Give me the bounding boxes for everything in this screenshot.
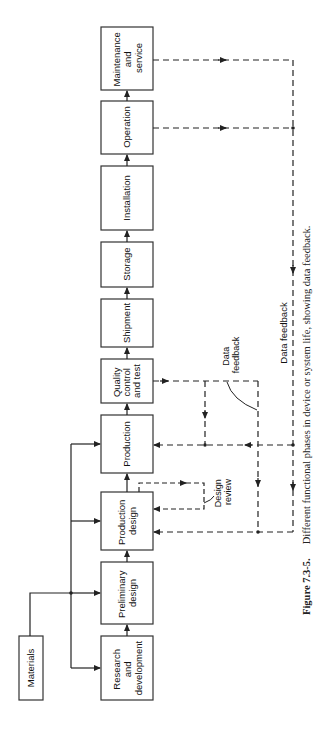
figure-caption: Figure 7.3-5. Different functional phase… [296,226,313,615]
svg-text:Quality control an: Quality control and test [111,364,142,398]
caption-figure-number: Figure 7.3-5. [301,558,312,615]
label-production: Production [121,421,132,466]
label-preliminary: Preliminary [116,570,127,618]
svg-text:Shipment: Shipment [121,303,132,343]
qc-feedback-loop [153,381,260,534]
label-maintenance: Maintenance [111,32,122,86]
label-research: Research [111,649,122,690]
phases-diagram: Research and development Preliminary des… [0,0,318,737]
label-qc-data-feedback: Data [221,347,231,366]
label-main-data-feedback: Data feedback [278,302,289,364]
main-feedback-loop [153,60,295,532]
label-production-design: Production [116,500,127,545]
svg-text:Materials: Materials [25,648,36,687]
label-materials: Materials [25,648,36,687]
caption-text: Different functional phases in device or… [301,226,312,545]
annotation-labels: Design review Data feedback Data feedbac… [213,302,289,507]
svg-text:Design review: Design review [213,477,233,508]
label-operation: Operation [121,106,132,148]
label-storage: Storage [121,247,132,280]
svg-text:Storage: Storage [121,247,132,280]
label-shipment: Shipment [121,303,132,343]
svg-text:Data feedback: Data feedback [278,302,289,364]
svg-text:Data feedback: Data feedback [221,336,241,373]
label-installation: Installation [121,175,132,220]
svg-text:Production: Production [121,421,132,466]
svg-text:Operation: Operation [121,106,132,148]
materials-bus [30,444,100,668]
label-design-review: Design [213,479,223,507]
svg-text:Installation: Installation [121,175,132,220]
